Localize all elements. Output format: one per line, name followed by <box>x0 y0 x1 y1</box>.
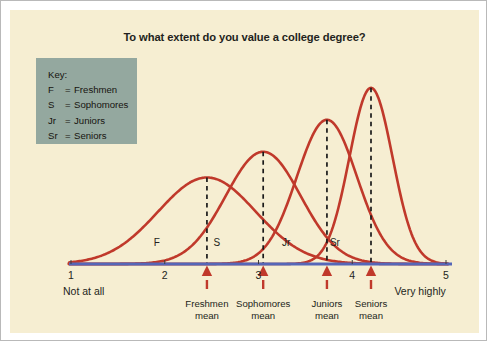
mean-label-name-juniors: Juniors <box>311 298 342 310</box>
mean-label-name-seniors: Seniors <box>355 298 388 310</box>
tick-label-3: 3 <box>256 269 262 281</box>
mean-arrow-juniors <box>322 266 332 277</box>
curve-seniors <box>69 88 448 264</box>
curve-label-juniors: Jr <box>282 237 290 248</box>
mean-label-word-seniors: mean <box>355 310 388 322</box>
mean-label-name-sophomores: Sophomores <box>236 298 290 310</box>
tick-label-4: 4 <box>349 269 355 281</box>
chart-panel: To what extent do you value a college de… <box>10 10 479 333</box>
distribution-curves <box>69 88 448 264</box>
mean-label-word-sophomores: mean <box>236 310 290 322</box>
tick-label-2: 2 <box>162 269 168 281</box>
curve-label-freshmen: F <box>154 237 160 248</box>
mean-arrow-freshmen <box>202 266 212 277</box>
figure-container: To what extent do you value a college de… <box>0 0 487 341</box>
axis-label-not-at-all: Not at all <box>63 285 104 297</box>
mean-label-word-freshmen: mean <box>185 310 228 322</box>
tick-label-1: 1 <box>68 269 74 281</box>
mean-label-seniors: Seniorsmean <box>355 298 388 322</box>
curve-sophomores <box>69 152 448 264</box>
mean-arrow-seniors <box>366 266 376 277</box>
axis-label-very-highly: Very highly <box>394 285 445 297</box>
curve-label-sophomores: S <box>213 237 220 248</box>
mean-label-word-juniors: mean <box>311 310 342 322</box>
x-axis-line <box>69 260 452 264</box>
mean-label-name-freshmen: Freshmen <box>185 298 228 310</box>
mean-label-juniors: Juniorsmean <box>311 298 342 322</box>
curve-label-seniors: Sr <box>330 237 340 248</box>
mean-label-sophomores: Sophomoresmean <box>236 298 290 322</box>
tick-label-5: 5 <box>443 269 449 281</box>
mean-label-freshmen: Freshmenmean <box>185 298 228 322</box>
